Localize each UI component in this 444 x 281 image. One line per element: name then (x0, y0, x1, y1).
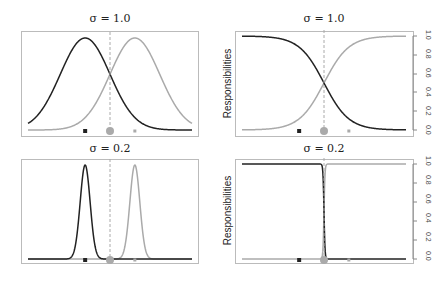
center-2-marker (133, 259, 136, 262)
center-2-marker (347, 130, 350, 133)
center-1-marker (297, 129, 301, 133)
center-1-marker (83, 258, 87, 262)
data-point-marker (320, 127, 328, 135)
plots-canvas (0, 0, 444, 281)
data-point-marker (106, 127, 114, 135)
data-point-marker (106, 256, 114, 264)
center-1-marker (297, 258, 301, 262)
center-1-marker (83, 129, 87, 133)
center-2-marker (347, 259, 350, 262)
center-2-marker (133, 130, 136, 133)
data-point-marker (320, 256, 328, 264)
